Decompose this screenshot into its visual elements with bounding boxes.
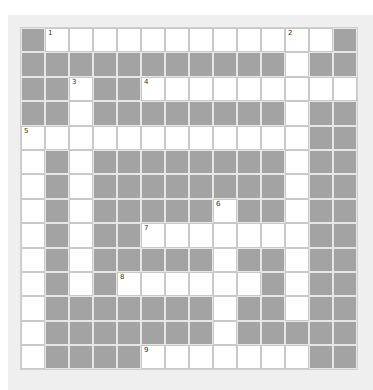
crossword-cell[interactable]: [21, 296, 45, 320]
crossword-cell[interactable]: [285, 296, 309, 320]
crossword-cell[interactable]: [117, 28, 141, 52]
crossword-cell[interactable]: [93, 28, 117, 52]
crossword-cell[interactable]: [69, 101, 93, 125]
block-cell: [93, 345, 117, 369]
crossword-cell[interactable]: [285, 150, 309, 174]
crossword-cell[interactable]: 7: [141, 223, 165, 247]
crossword-cell[interactable]: [213, 296, 237, 320]
crossword-cell[interactable]: [285, 345, 309, 369]
crossword-cell[interactable]: [21, 223, 45, 247]
crossword-cell[interactable]: [165, 28, 189, 52]
crossword-cell[interactable]: [69, 199, 93, 223]
crossword-cell[interactable]: [189, 126, 213, 150]
block-cell: [69, 345, 93, 369]
crossword-cell[interactable]: [189, 345, 213, 369]
crossword-cell[interactable]: [69, 174, 93, 198]
crossword-cell[interactable]: 6: [213, 199, 237, 223]
crossword-cell[interactable]: [213, 248, 237, 272]
crossword-cell[interactable]: [69, 248, 93, 272]
crossword-cell[interactable]: [117, 126, 141, 150]
crossword-cell[interactable]: [213, 28, 237, 52]
crossword-cell[interactable]: [141, 126, 165, 150]
block-cell: [21, 52, 45, 76]
crossword-cell[interactable]: [213, 272, 237, 296]
crossword-cell[interactable]: [309, 77, 333, 101]
crossword-cell[interactable]: [93, 126, 117, 150]
block-cell: [333, 345, 357, 369]
crossword-cell[interactable]: [285, 126, 309, 150]
crossword-cell[interactable]: [261, 223, 285, 247]
crossword-cell[interactable]: 8: [117, 272, 141, 296]
crossword-cell[interactable]: [285, 272, 309, 296]
crossword-cell[interactable]: [69, 28, 93, 52]
crossword-cell[interactable]: [165, 272, 189, 296]
block-cell: [117, 174, 141, 198]
crossword-cell[interactable]: [21, 345, 45, 369]
crossword-cell[interactable]: [69, 272, 93, 296]
crossword-cell[interactable]: [213, 345, 237, 369]
block-cell: [333, 101, 357, 125]
crossword-cell[interactable]: [165, 345, 189, 369]
crossword-cell[interactable]: [69, 126, 93, 150]
crossword-cell[interactable]: [285, 223, 309, 247]
crossword-cell[interactable]: [213, 126, 237, 150]
crossword-cell[interactable]: [21, 199, 45, 223]
crossword-cell[interactable]: [285, 174, 309, 198]
crossword-cell[interactable]: [189, 77, 213, 101]
crossword-cell[interactable]: [261, 28, 285, 52]
crossword-cell[interactable]: [237, 126, 261, 150]
crossword-cell[interactable]: 1: [45, 28, 69, 52]
crossword-cell[interactable]: [237, 345, 261, 369]
crossword-cell[interactable]: [285, 199, 309, 223]
crossword-cell[interactable]: [237, 272, 261, 296]
crossword-cell[interactable]: [237, 223, 261, 247]
crossword-cell[interactable]: 5: [21, 126, 45, 150]
block-cell: [117, 248, 141, 272]
crossword-cell[interactable]: [141, 28, 165, 52]
crossword-cell[interactable]: 9: [141, 345, 165, 369]
crossword-cell[interactable]: [237, 77, 261, 101]
block-cell: [309, 272, 333, 296]
crossword-cell[interactable]: [165, 126, 189, 150]
block-cell: [45, 272, 69, 296]
clue-number: 4: [144, 79, 148, 86]
crossword-cell[interactable]: [213, 321, 237, 345]
crossword-cell[interactable]: 4: [141, 77, 165, 101]
crossword-cell[interactable]: [69, 150, 93, 174]
crossword-cell[interactable]: [69, 223, 93, 247]
block-cell: [309, 248, 333, 272]
crossword-cell[interactable]: [165, 77, 189, 101]
block-cell: [333, 296, 357, 320]
crossword-cell[interactable]: [189, 272, 213, 296]
crossword-cell[interactable]: [309, 28, 333, 52]
crossword-cell[interactable]: [285, 77, 309, 101]
crossword-cell[interactable]: [237, 28, 261, 52]
crossword-cell[interactable]: [189, 223, 213, 247]
crossword-cell[interactable]: [285, 101, 309, 125]
clue-number: 8: [120, 274, 124, 281]
crossword-cell[interactable]: [189, 28, 213, 52]
crossword-cell[interactable]: [21, 174, 45, 198]
crossword-cell[interactable]: 2: [285, 28, 309, 52]
crossword-cell[interactable]: 3: [69, 77, 93, 101]
block-cell: [45, 296, 69, 320]
block-cell: [213, 101, 237, 125]
crossword-cell[interactable]: [21, 272, 45, 296]
crossword-cell[interactable]: [21, 150, 45, 174]
crossword-cell[interactable]: [21, 321, 45, 345]
crossword-cell[interactable]: [21, 248, 45, 272]
crossword-cell[interactable]: [261, 77, 285, 101]
crossword-cell[interactable]: [261, 126, 285, 150]
block-cell: [309, 150, 333, 174]
crossword-cell[interactable]: [141, 272, 165, 296]
crossword-cell[interactable]: [213, 77, 237, 101]
block-cell: [165, 248, 189, 272]
crossword-cell[interactable]: [285, 52, 309, 76]
crossword-cell[interactable]: [165, 223, 189, 247]
crossword-cell[interactable]: [45, 126, 69, 150]
crossword-cell[interactable]: [213, 223, 237, 247]
block-cell: [261, 52, 285, 76]
crossword-cell[interactable]: [285, 248, 309, 272]
crossword-cell[interactable]: [261, 345, 285, 369]
crossword-cell[interactable]: [333, 77, 357, 101]
